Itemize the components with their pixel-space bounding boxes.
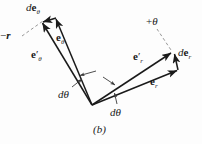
label-e-r: er bbox=[150, 76, 158, 90]
label-d-theta-right: dθ bbox=[110, 107, 121, 118]
label-d-theta-left-symbol: θ bbox=[64, 88, 69, 100]
label-d-e-r: der bbox=[178, 47, 191, 61]
label-e-r-subscript: r bbox=[155, 82, 158, 90]
d-theta-right-pointer-upper-icon bbox=[103, 77, 115, 85]
label-plus-theta-symbol: θ bbox=[152, 15, 157, 27]
label-minus-r-vector: r bbox=[6, 29, 10, 41]
label-d-e-theta: deθ bbox=[26, 2, 40, 16]
label-d-theta-right-symbol: θ bbox=[116, 106, 121, 118]
vector-e-r-prime bbox=[92, 53, 171, 105]
label-e-r-prime-subscript: r bbox=[140, 57, 143, 65]
label-e-r-prime: e′r bbox=[133, 51, 143, 65]
vector-de-theta bbox=[43, 18, 56, 22]
vector-e-r bbox=[92, 71, 177, 106]
label-d-e-r-subscript: r bbox=[188, 53, 191, 61]
figure-panel-b: deθ −r eθ e′θ dθ dθ +θ e′r der er (b) bbox=[0, 0, 202, 144]
label-e-theta-prime-subscript: θ bbox=[38, 55, 41, 63]
label-minus-r: −r bbox=[0, 30, 11, 41]
plus-theta-leader-line bbox=[157, 29, 171, 50]
label-d-theta-left: dθ bbox=[58, 89, 69, 100]
label-d-e-theta-subscript: θ bbox=[36, 8, 39, 16]
label-e-theta-prime: e′θ bbox=[31, 49, 42, 63]
label-plus-theta: +θ bbox=[146, 16, 158, 27]
label-e-theta: eθ bbox=[56, 32, 64, 46]
d-theta-left-pointer-upper-icon bbox=[80, 71, 96, 76]
figure-caption: (b) bbox=[93, 124, 106, 135]
label-e-theta-subscript: θ bbox=[61, 38, 64, 46]
minus-r-leader-line bbox=[22, 21, 43, 36]
